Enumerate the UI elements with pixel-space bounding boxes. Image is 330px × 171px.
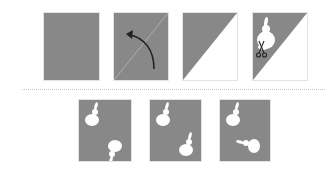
step-2-fold [114,13,168,80]
step-1-paper [44,13,99,80]
step-4-cut [253,13,307,80]
dotted-divider [22,89,325,90]
step-3-folded [183,13,237,80]
option-b[interactable] [150,100,201,161]
option-a[interactable] [79,100,131,161]
option-c[interactable] [220,100,270,161]
